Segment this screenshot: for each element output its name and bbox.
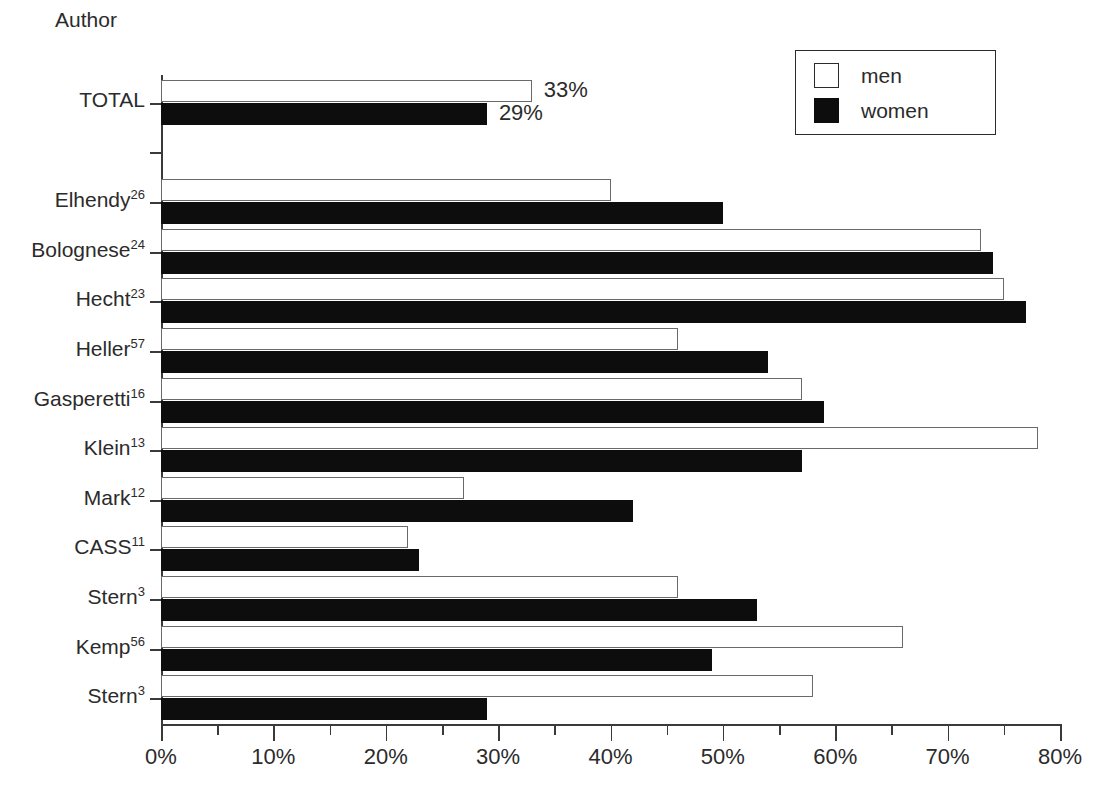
y-axis-category-label: CASS11 — [0, 534, 145, 559]
x-axis-minor-tick — [217, 726, 219, 735]
x-axis-major-tick — [1060, 726, 1062, 741]
legend-swatch-women-icon — [814, 98, 839, 123]
legend-label-men: men — [861, 64, 902, 88]
x-axis-tick-label: 40% — [588, 744, 632, 770]
bar-women — [161, 649, 712, 671]
bar-men — [161, 626, 903, 648]
y-axis-category-label: Hecht23 — [0, 286, 145, 311]
horizontal-bar-chart: Author men women TOTAL33%29%Elhendy26Bol… — [0, 0, 1103, 799]
bar-value-label-women: 29% — [499, 100, 543, 126]
x-axis-minor-tick — [779, 726, 781, 735]
legend-item-men: men — [814, 63, 902, 88]
x-axis-tick-label: 50% — [701, 744, 745, 770]
y-axis-tick — [150, 649, 161, 651]
x-axis-minor-tick — [330, 726, 332, 735]
bar-men — [161, 526, 408, 548]
y-axis-tick — [150, 202, 161, 204]
chart-legend: men women — [795, 50, 996, 135]
x-axis-major-tick — [723, 726, 725, 741]
bar-women — [161, 450, 802, 472]
legend-label-women: women — [861, 99, 929, 123]
category-reference-superscript: 3 — [138, 683, 145, 698]
y-axis-tick — [150, 351, 161, 353]
x-axis-major-tick — [273, 726, 275, 741]
category-reference-superscript: 3 — [138, 584, 145, 599]
y-axis-category-label: Klein13 — [0, 435, 145, 460]
bar-men — [161, 675, 813, 697]
bar-women — [161, 549, 419, 571]
y-axis-tick — [150, 599, 161, 601]
x-axis-major-tick — [611, 726, 613, 741]
y-axis-tick — [150, 301, 161, 303]
bar-men — [161, 179, 611, 201]
y-axis-category-label: Bolognese24 — [0, 237, 145, 262]
bar-women — [161, 401, 824, 423]
y-axis-tick — [150, 152, 161, 154]
x-axis-major-tick — [498, 726, 500, 741]
y-axis-tick — [150, 450, 161, 452]
category-reference-superscript: 26 — [131, 187, 145, 202]
x-axis-tick-label: 20% — [364, 744, 408, 770]
bar-women — [161, 599, 757, 621]
bar-women — [161, 500, 633, 522]
x-axis-minor-tick — [667, 726, 669, 735]
bar-women — [161, 301, 1026, 323]
category-reference-superscript: 56 — [131, 634, 145, 649]
category-reference-superscript: 57 — [131, 336, 145, 351]
bar-men — [161, 278, 1004, 300]
bar-men — [161, 427, 1038, 449]
y-axis-title: Author — [55, 8, 117, 32]
y-axis-category-label: Heller57 — [0, 336, 145, 361]
x-axis-major-tick — [835, 726, 837, 741]
bar-value-label-men: 33% — [544, 77, 588, 103]
x-axis-tick-label: 70% — [926, 744, 970, 770]
x-axis-tick-label: 10% — [251, 744, 295, 770]
x-axis-major-tick — [948, 726, 950, 741]
category-reference-superscript: 16 — [131, 386, 145, 401]
category-reference-superscript: 24 — [131, 237, 145, 252]
bar-men — [161, 80, 532, 102]
y-axis-category-label: Stern3 — [0, 584, 145, 609]
x-axis-major-tick — [386, 726, 388, 741]
bar-men — [161, 477, 464, 499]
y-axis-tick — [150, 401, 161, 403]
bar-women — [161, 351, 768, 373]
y-axis-category-label: Mark12 — [0, 485, 145, 510]
y-axis-tick — [150, 698, 161, 700]
y-axis-tick — [150, 252, 161, 254]
x-axis-minor-tick — [442, 726, 444, 735]
x-axis-tick-label: 60% — [813, 744, 857, 770]
y-axis-category-label: Elhendy26 — [0, 187, 145, 212]
y-axis-category-label: Kemp56 — [0, 634, 145, 659]
bar-women — [161, 202, 723, 224]
bar-women — [161, 252, 993, 274]
y-axis-tick — [150, 103, 161, 105]
category-reference-superscript: 11 — [132, 534, 146, 549]
bar-men — [161, 229, 981, 251]
x-axis-tick-label: 30% — [476, 744, 520, 770]
legend-swatch-men-icon — [814, 63, 839, 88]
x-axis-major-tick — [161, 726, 163, 741]
x-axis-tick-label: 80% — [1038, 744, 1082, 770]
bar-men — [161, 328, 678, 350]
x-axis-minor-tick — [891, 726, 893, 735]
y-axis-category-label: Stern3 — [0, 683, 145, 708]
bar-women — [161, 698, 487, 720]
y-axis-category-label: TOTAL — [0, 88, 145, 112]
x-axis-minor-tick — [1004, 726, 1006, 735]
y-axis-tick — [150, 549, 161, 551]
bar-women — [161, 103, 487, 125]
x-axis-minor-tick — [554, 726, 556, 735]
category-reference-superscript: 12 — [131, 485, 145, 500]
legend-item-women: women — [814, 98, 929, 123]
y-axis-category-label: Gasperetti16 — [0, 386, 145, 411]
y-axis-tick — [150, 500, 161, 502]
bar-men — [161, 378, 802, 400]
x-axis-tick-label: 0% — [145, 744, 177, 770]
category-reference-superscript: 13 — [131, 435, 145, 450]
bar-men — [161, 576, 678, 598]
category-reference-superscript: 23 — [131, 286, 145, 301]
